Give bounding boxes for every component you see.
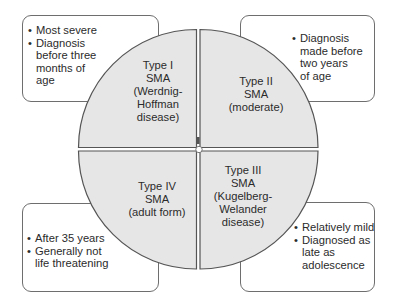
notes-type-1: • Most severe • Diagnosis before three m… (28, 24, 97, 87)
bullet-icon: • (294, 221, 298, 234)
center-hub-icon (196, 146, 202, 152)
bullet-icon: • (27, 232, 31, 245)
center-pin-icon (197, 137, 200, 144)
label-line: (adult form) (112, 206, 202, 219)
quadrant-label-type-2: Type II SMA (moderate) (211, 75, 301, 114)
bullet-icon: • (28, 37, 32, 50)
label-line: Type IV (112, 180, 202, 193)
bullet-item: • Most severe (28, 24, 97, 37)
label-line: SMA (198, 177, 288, 190)
label-line: Welander (198, 203, 288, 216)
bullet-line: Most severe (36, 24, 97, 37)
bullet-line: age (36, 74, 97, 87)
sma-types-diagram: Type I SMA (Werdnig- Hoffman disease) Ty… (0, 0, 397, 306)
label-line: Type I (113, 59, 203, 72)
label-line: disease) (113, 111, 203, 124)
bullet-line: Generally not (35, 245, 108, 258)
label-line: (Kugelberg- (198, 190, 288, 203)
label-line: SMA (113, 72, 203, 85)
bullet-line: life threatening (35, 257, 108, 270)
label-line: disease) (198, 216, 288, 229)
bullet-icon: • (292, 32, 296, 45)
label-line: Hoffman (113, 98, 203, 111)
bullet-item: • Diagnosis made before two years of age (292, 32, 363, 82)
bullet-line: late as (302, 246, 374, 259)
bullet-item: • After 35 years (27, 232, 108, 245)
notes-type-4: • After 35 years • Generally not life th… (27, 232, 108, 270)
notes-type-2: • Diagnosis made before two years of age (292, 32, 363, 82)
bullet-item: • Relatively mild (294, 221, 374, 234)
bullet-line: two years (300, 57, 363, 70)
label-line: SMA (211, 88, 301, 101)
bullet-item: • Diagnosis before three months of age (28, 37, 97, 87)
quadrant-label-type-1: Type I SMA (Werdnig- Hoffman disease) (113, 59, 203, 124)
bullet-line: adolescence (302, 259, 374, 272)
bullet-line: of age (300, 70, 363, 83)
bullet-icon: • (27, 245, 31, 258)
label-line: SMA (112, 193, 202, 206)
bullet-item: • Diagnosed as late as adolescence (294, 234, 374, 272)
bullet-line: Relatively mild (302, 221, 374, 234)
bullet-line: months of (36, 62, 97, 75)
bullet-item: • Generally not life threatening (27, 245, 108, 270)
quadrant-label-type-4: Type IV SMA (adult form) (112, 180, 202, 219)
bullet-line: After 35 years (35, 232, 108, 245)
bullet-line: Diagnosed as (302, 234, 374, 247)
bullet-icon: • (294, 234, 298, 247)
quadrant-label-type-3: Type III SMA (Kugelberg- Welander diseas… (198, 164, 288, 229)
bullet-line: Diagnosis (36, 37, 97, 50)
notes-type-3: • Relatively mild • Diagnosed as late as… (294, 221, 374, 271)
bullet-line: Diagnosis (300, 32, 363, 45)
label-line: Type III (198, 164, 288, 177)
label-line: Type II (211, 75, 301, 88)
label-line: (Werdnig- (113, 85, 203, 98)
bullet-line: before three (36, 49, 97, 62)
label-line: (moderate) (211, 101, 301, 114)
bullet-line: made before (300, 45, 363, 58)
bullet-icon: • (28, 24, 32, 37)
